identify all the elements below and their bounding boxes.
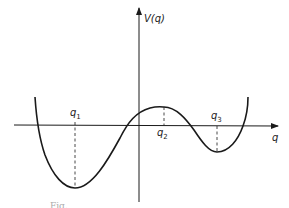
- potential-curve-diagram: [0, 0, 289, 208]
- q2-label: q2: [157, 128, 168, 141]
- y-axis-label: V(q): [144, 14, 165, 24]
- q3-label: q3: [211, 111, 222, 124]
- x-axis-label-text: q: [272, 132, 278, 143]
- x-axis-label: q: [272, 133, 278, 143]
- y-axis-label-text: V(q): [144, 13, 165, 24]
- figure-caption: Fig.: [50, 201, 68, 208]
- q1-label: q1: [70, 108, 81, 121]
- x-axis: [14, 125, 278, 126]
